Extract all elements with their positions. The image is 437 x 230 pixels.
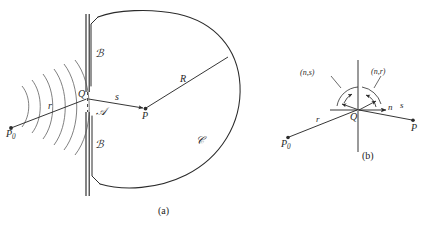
unit-vector-s-arrow-b	[359, 101, 376, 110]
source-point-label-a: P0	[6, 129, 16, 141]
vertex-point-label-b: Q	[350, 112, 357, 122]
angle-ns-outer-arc-b	[337, 87, 358, 106]
angle-nr-label-b: (n,r)	[371, 67, 385, 76]
incident-ray-label-a: r	[48, 101, 52, 111]
radius-line-a	[146, 57, 228, 108]
panel-a-caption: (a)	[158, 205, 169, 216]
field-point-label-a: P	[142, 111, 148, 121]
angle-nr-leader-b	[374, 76, 381, 88]
radius-label-a: R	[180, 74, 186, 84]
sphere-surface-label-a: 𝒞	[196, 135, 204, 146]
angle-ns-label-b: (n,s)	[300, 68, 314, 77]
normal-label-b: n	[388, 103, 393, 112]
aperture-point-label-a: Q	[78, 89, 85, 99]
secondary-ray-label-b: s	[400, 101, 404, 110]
angle-ns-leader-b	[331, 76, 341, 88]
incident-ray-label-b: r	[316, 115, 320, 124]
wavefront-arc-6	[75, 60, 89, 155]
secondary-ray-label-a: s	[115, 92, 119, 102]
unit-vector-r-arrow-b	[342, 104, 359, 110]
panel-b-caption: (b)	[362, 150, 374, 161]
panel-a-linework	[9, 10, 240, 196]
screen-upper-label-a: ℬ	[95, 48, 104, 59]
aperture-region-label-a: 𝒜	[96, 106, 106, 117]
sphere-surface-arc	[98, 10, 240, 187]
figure-linework	[0, 0, 437, 230]
secondary-ray-line-b	[359, 110, 412, 120]
optics-diffraction-figure: P0 r Q s P R ℬ 𝒜 ℬ 𝒞 (a) P0 r Q n s P (n…	[0, 0, 437, 230]
wavefront-arc-1	[22, 86, 29, 127]
source-point-label-b: P0	[281, 139, 291, 151]
screen-lower-label-a: ℬ	[95, 139, 104, 150]
incident-ray-line-b	[289, 110, 357, 137]
wavefront-arc-4	[54, 69, 65, 145]
wavefront-arc-2	[32, 80, 40, 133]
angle-ns-arc-b	[344, 94, 352, 103]
field-point-label-b: P	[411, 123, 417, 133]
angle-nr-arc-b	[362, 87, 381, 104]
